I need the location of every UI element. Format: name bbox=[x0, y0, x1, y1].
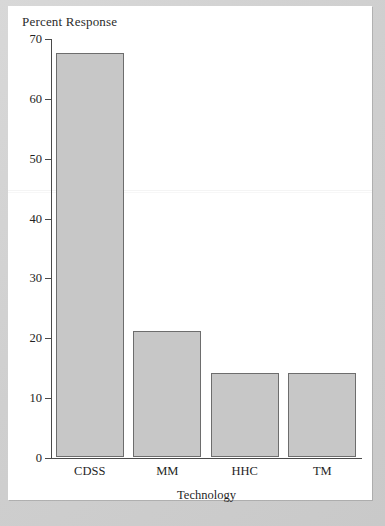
scanned-page-panel: Percent Response 010203040506070 CDSSMMH… bbox=[8, 6, 372, 500]
x-tick-label: HHC bbox=[232, 464, 258, 479]
y-tick-mark bbox=[45, 99, 52, 100]
y-tick-mark bbox=[45, 219, 52, 220]
bar-chart: Percent Response 010203040506070 CDSSMMH… bbox=[8, 6, 372, 500]
y-tick-mark bbox=[45, 338, 52, 339]
y-tick-label: 0 bbox=[36, 451, 42, 466]
x-axis-line bbox=[51, 458, 362, 459]
y-tick-label: 20 bbox=[30, 331, 43, 346]
y-tick-label: 60 bbox=[30, 91, 43, 106]
bar bbox=[211, 373, 279, 457]
x-tick-label: CDSS bbox=[74, 464, 105, 479]
y-tick-label: 30 bbox=[30, 271, 43, 286]
plot-area: 010203040506070 CDSSMMHHCTM Technology bbox=[51, 39, 361, 458]
x-tick-label: TM bbox=[313, 464, 332, 479]
bar bbox=[288, 373, 356, 457]
y-tick-mark bbox=[45, 278, 52, 279]
y-tick-mark bbox=[45, 159, 52, 160]
x-axis-title: Technology bbox=[51, 488, 362, 503]
y-tick-label: 70 bbox=[30, 32, 43, 47]
page-background: Percent Response 010203040506070 CDSSMMH… bbox=[0, 0, 385, 526]
y-axis-line bbox=[51, 39, 52, 459]
bar bbox=[56, 53, 124, 457]
y-tick-mark bbox=[45, 458, 52, 459]
y-tick-label: 40 bbox=[30, 211, 43, 226]
bar bbox=[133, 331, 201, 457]
y-tick-mark bbox=[45, 39, 52, 40]
x-tick-label: MM bbox=[156, 464, 178, 479]
y-axis-title: Percent Response bbox=[22, 14, 117, 30]
y-tick-mark bbox=[45, 398, 52, 399]
y-tick-label: 50 bbox=[30, 151, 43, 166]
y-tick-label: 10 bbox=[30, 391, 43, 406]
